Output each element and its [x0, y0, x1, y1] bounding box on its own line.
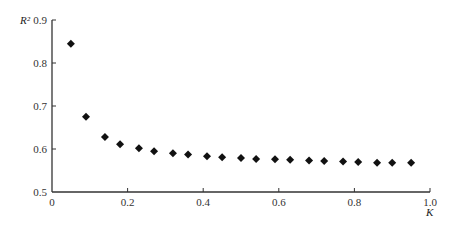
data-point-diamond: [169, 149, 177, 157]
x-tick-label: 0.4: [196, 196, 210, 208]
data-point-diamond: [305, 157, 313, 165]
x-tick-label: 0.2: [121, 196, 135, 208]
data-point-diamond: [116, 140, 124, 148]
scatter-chart: 00.20.40.60.81.00.50.60.70.80.9 R² K: [0, 0, 455, 231]
y-tick-label: 0.8: [33, 57, 47, 69]
data-point-diamond: [252, 155, 260, 163]
data-point-diamond: [218, 153, 226, 161]
data-point-diamond: [150, 147, 158, 155]
data-point-diamond: [407, 159, 415, 167]
tick-labels: 00.20.40.60.81.00.50.60.70.80.9: [33, 14, 437, 208]
data-point-diamond: [339, 157, 347, 165]
data-point-diamond: [320, 157, 328, 165]
x-tick-label: 0: [49, 196, 55, 208]
data-point-diamond: [101, 133, 109, 141]
data-point-diamond: [373, 159, 381, 167]
y-axis-title: R²: [19, 14, 31, 26]
data-point-diamond: [67, 40, 75, 48]
y-tick-label: 0.6: [33, 143, 47, 155]
x-axis-title: K: [425, 206, 434, 218]
y-tick-label: 0.7: [33, 100, 47, 112]
data-point-diamond: [286, 156, 294, 164]
data-point-diamond: [203, 152, 211, 160]
y-tick-label: 0.9: [33, 14, 47, 26]
x-tick-label: 0.6: [272, 196, 286, 208]
y-tick-label: 0.5: [33, 186, 47, 198]
x-tick-label: 0.8: [348, 196, 362, 208]
axes: [52, 20, 430, 192]
data-point-diamond: [135, 144, 143, 152]
data-point-diamond: [184, 151, 192, 159]
data-point-diamond: [388, 159, 396, 167]
data-point-diamond: [271, 155, 279, 163]
data-point-diamond: [237, 154, 245, 162]
data-point-diamond: [354, 158, 362, 166]
data-point-diamond: [82, 113, 90, 121]
data-points: [67, 40, 415, 167]
